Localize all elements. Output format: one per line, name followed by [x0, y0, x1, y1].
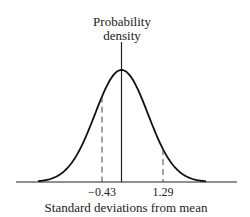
x-axis-label: Standard deviations from mean	[45, 200, 208, 215]
tick-label-neg043: −0.43	[88, 185, 116, 199]
tick-label-129: 1.29	[153, 185, 174, 199]
y-axis-label-line2: density	[103, 28, 141, 43]
normal-distribution-chart: Probability density −0.43 1.29 Standard …	[0, 0, 250, 217]
y-axis-label-line1: Probability	[93, 14, 151, 29]
